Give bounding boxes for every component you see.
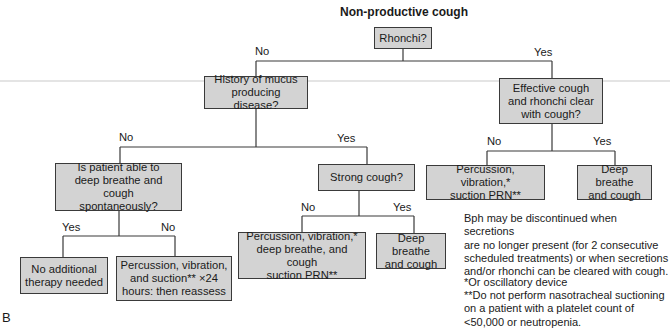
node-percussion-deep-breathe: Percussion, vibration,* deep breathe, an… xyxy=(238,232,366,279)
diagram-title: Non-productive cough xyxy=(334,5,474,19)
node-history-mucus: History of mucus producing disease? xyxy=(204,76,308,109)
edge-label-effective-yes: Yes xyxy=(593,135,611,147)
node-able-deep-breathe: Is patient able to deep breathe and coug… xyxy=(55,163,182,211)
node-rhonchi: Rhonchi? xyxy=(374,27,432,49)
edge-label-rhonchi-yes: Yes xyxy=(534,46,552,58)
edge-label-effective-no: No xyxy=(487,135,501,147)
node-deep-breathe-right: Deep breathe and cough xyxy=(577,165,652,200)
edge-label-strong-yes: Yes xyxy=(393,201,411,213)
node-no-additional-therapy: No additional therapy needed xyxy=(20,257,108,294)
node-percussion-suction-prn: Percussion, vibration,* suction PRN** xyxy=(426,165,545,200)
edge-label-able-no: No xyxy=(161,221,175,233)
edge-label-history-yes: Yes xyxy=(337,132,355,144)
footnote-oscillatory: *Or oscillatory device xyxy=(464,276,567,289)
node-deep-breathe-mid: Deep breathe and cough xyxy=(376,233,446,269)
edge-label-able-yes: Yes xyxy=(62,221,80,233)
node-effective-cough: Effective cough and rhonchi clear with c… xyxy=(499,78,603,124)
edge-label-strong-no: No xyxy=(301,201,315,213)
node-strong-cough: Strong cough? xyxy=(318,164,415,191)
edge-label-history-no: No xyxy=(119,131,133,143)
figure-label: B xyxy=(2,310,11,325)
footnote-suctioning: **Do not perform nasotracheal suctioning… xyxy=(464,289,665,329)
edge-label-rhonchi-no: No xyxy=(255,45,269,57)
discontinue-note: Bph may be discontinued when secretions … xyxy=(464,212,670,278)
node-percussion-24h: Percussion, vibration, and suction** ×24… xyxy=(116,256,232,301)
